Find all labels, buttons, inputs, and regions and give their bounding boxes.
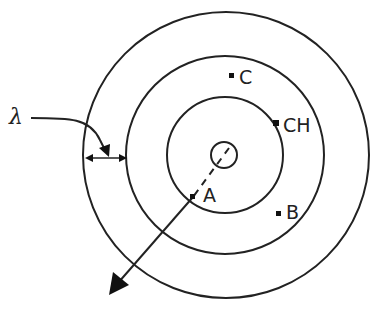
arrowhead-icon — [109, 272, 129, 295]
middle-ring — [126, 56, 324, 254]
point-b-marker — [276, 211, 281, 216]
wavelength-left-arrowhead-icon — [85, 154, 93, 162]
point-a-label: A — [203, 186, 216, 205]
lambda-leader-arrowhead-icon — [99, 144, 110, 157]
lambda-label: λ — [9, 106, 23, 128]
propagation-arrow-shaft — [118, 197, 193, 283]
point-ch-label: CH — [283, 116, 311, 135]
inner-ring — [167, 97, 283, 213]
point-a-marker — [190, 194, 195, 199]
point-c-label: C — [239, 68, 252, 87]
point-c-marker — [229, 73, 234, 78]
point-ch-marker — [273, 120, 279, 126]
concentric-wave-diagram — [0, 0, 381, 311]
point-b-label: B — [286, 203, 299, 222]
source-circle — [211, 142, 237, 168]
lambda-leader-line — [31, 118, 105, 150]
